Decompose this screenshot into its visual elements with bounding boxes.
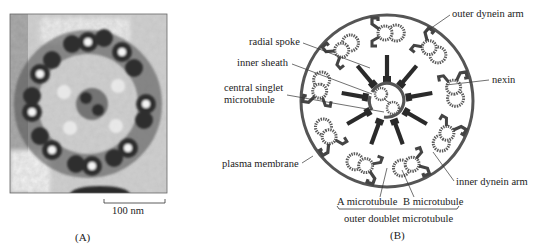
central-singlet <box>387 102 399 114</box>
label-b-microtubule: B microtubule <box>403 196 463 208</box>
label-outer-dynein-arm: outer dynein arm <box>452 8 524 20</box>
label-central-singlet-2: microtubule <box>224 94 275 106</box>
central-singlet <box>375 88 387 100</box>
scale-bar <box>104 199 165 203</box>
scale-bar-label: 100 nm <box>112 205 144 217</box>
label-a-microtubule: A microtubule <box>337 196 397 208</box>
panel-b-letter: (B) <box>390 229 405 241</box>
micrograph <box>10 14 167 202</box>
panel-a-letter: (A) <box>75 231 90 243</box>
label-nexin: nexin <box>492 74 515 86</box>
label-inner-sheath: inner sheath <box>237 57 288 69</box>
label-plasma-membrane: plasma membrane <box>222 158 299 170</box>
label-inner-dynein-arm: inner dynein arm <box>456 176 528 188</box>
label-radial-spoke: radial spoke <box>249 36 300 48</box>
label-outer-doublet: outer doublet microtubule <box>344 213 453 225</box>
label-central-singlet-1: central singlet <box>224 82 283 94</box>
